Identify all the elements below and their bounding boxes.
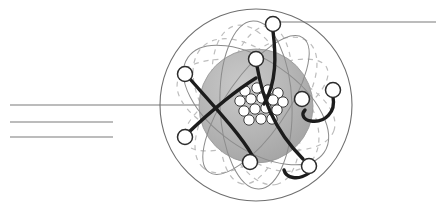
- electron-right-outer: [326, 83, 341, 98]
- atom-diagram-canvas: [0, 0, 442, 209]
- electron-bottom-mid: [243, 155, 258, 170]
- nucleon-particle: [244, 115, 254, 125]
- electron-right-inner: [295, 92, 310, 107]
- nucleon-particle: [250, 104, 260, 114]
- nucleon-particle: [256, 114, 266, 124]
- electron-bottom-right: [302, 159, 317, 174]
- electron-top: [266, 17, 281, 32]
- nucleon-particle: [235, 96, 245, 106]
- atom-illustration: [0, 0, 442, 209]
- nucleon-particle: [246, 94, 256, 104]
- electron-upper-left: [178, 67, 193, 82]
- electron-upper-mid: [249, 52, 264, 67]
- electron-lower-left: [178, 130, 193, 145]
